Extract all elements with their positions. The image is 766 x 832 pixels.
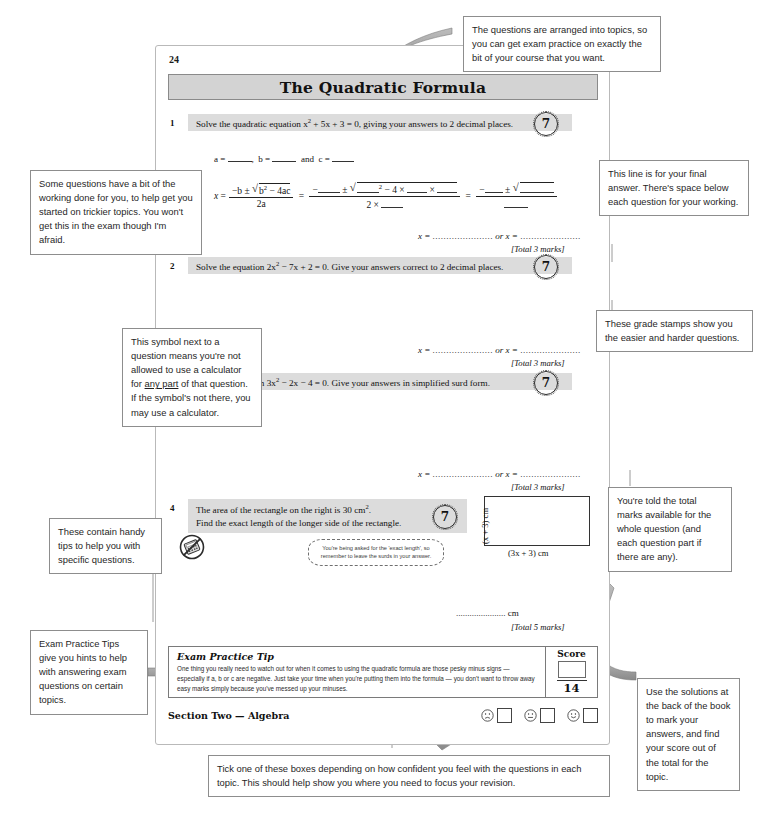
answer-or-1: or x = [493, 231, 520, 241]
score-panel: Score 14 [545, 647, 597, 697]
grade-stamp-1: 7 [534, 112, 558, 136]
total-marks-3: [Total 3 marks] [511, 482, 565, 492]
confidence-tickboxes [481, 708, 598, 723]
annotation-calculator-note: This symbol next to a question means you… [122, 328, 262, 427]
rectangle-shape [484, 496, 590, 546]
tickbox-sad[interactable] [497, 708, 512, 723]
page-footer: Section Two — Algebra [168, 708, 598, 723]
answer-prefix-1: x = [418, 231, 433, 241]
happy-face-icon [567, 709, 580, 722]
answer-prefix-3: x = [418, 469, 433, 479]
annotation-working-note: Some questions have a bit of the working… [30, 170, 202, 255]
sad-face-icon [481, 709, 494, 722]
answer-line-2: x = ...................... or x = ......… [418, 345, 581, 355]
answer-or-3: or x = [493, 469, 520, 479]
tickbox-happy[interactable] [583, 708, 598, 723]
annotation-total-marks-note: You're told the total marks available fo… [608, 487, 732, 572]
annotation-answer-line-note: This line is for your final answer. Ther… [599, 160, 749, 216]
rectangle-figure-4: (x + 3) cm (3x + 3) cm [466, 494, 596, 564]
exam-practice-tip-text: One thing you really need to watch out f… [177, 664, 538, 695]
hint-bubble-4: You're being asked for the 'exact length… [308, 539, 444, 566]
question-number-4: 4 [170, 503, 175, 513]
total-marks-1: [Total 3 marks] [511, 244, 565, 254]
tickbox-neutral[interactable] [540, 708, 555, 723]
page-title: The Quadratic Formula [168, 74, 598, 100]
score-total: 14 [563, 681, 579, 695]
grade-stamp-3: 7 [534, 371, 558, 395]
score-label: Score [557, 649, 585, 659]
confidence-group-happy[interactable] [567, 708, 598, 723]
question-text-1: Solve the quadratic equation x2 + 5x + 3… [188, 114, 572, 131]
page-title-text: The Quadratic Formula [280, 78, 486, 97]
exam-practice-tip-title: Exam Practice Tip [177, 651, 538, 662]
answer-line-3: x = ...................... or x = ......… [418, 469, 581, 479]
section-footer-title: Section Two — Algebra [168, 710, 289, 721]
grade-stamp-value-1: 7 [542, 117, 550, 131]
annotation-solutions-note: Use the solutions at the back of the boo… [637, 678, 740, 791]
neutral-face-icon [524, 709, 537, 722]
annotation-exam-practice-tips-note: Exam Practice Tips give you hints to hel… [30, 630, 148, 715]
confidence-group-neutral[interactable] [524, 708, 555, 723]
total-marks-4: [Total 5 marks] [511, 622, 565, 632]
grade-stamp-2: 7 [534, 255, 558, 279]
grade-stamp-value-3: 7 [542, 376, 550, 390]
answer-line-1: x = ...................... or x = ......… [418, 231, 581, 241]
rectangle-base-label: (3x + 3) cm [508, 548, 548, 558]
question-1-formula: x = −b ± b2 − 4ac2a = − ± 2 − 4 × × 2 × … [214, 182, 560, 210]
annotation-grade-stamp-note: These grade stamps show you the easier a… [596, 310, 753, 352]
question-text-2: Solve the equation 2x2 − 7x + 2 = 0. Giv… [188, 257, 572, 274]
answer-or-2: or x = [493, 345, 520, 355]
total-marks-2: [Total 3 marks] [511, 358, 565, 368]
answer-line-4: ...................... cm [456, 608, 519, 618]
exam-practice-tip: Exam Practice Tip One thing you really n… [168, 646, 598, 698]
question-number-2: 2 [170, 261, 175, 271]
exam-practice-tip-body: Exam Practice Tip One thing you really n… [169, 647, 545, 697]
score-input-box[interactable] [558, 661, 586, 678]
answer-prefix-2: x = [418, 345, 433, 355]
grade-stamp-value-4: 7 [441, 510, 449, 524]
grade-stamp-value-2: 7 [542, 260, 550, 274]
confidence-group-sad[interactable] [481, 708, 512, 723]
page-number: 24 [169, 54, 179, 65]
annotation-handy-tips-note: These contain handy tips to help you wit… [49, 518, 162, 574]
question-1-abc-line: a = , b = and c = [214, 152, 354, 164]
annotation-topics-note: The questions are arranged into topics, … [463, 16, 661, 72]
annotation-tickbox-note: Tick one of these boxes depending on how… [208, 755, 610, 797]
question-number-1: 1 [170, 118, 175, 128]
question-text-4: The area of the rectangle on the right i… [188, 499, 467, 533]
grade-stamp-4: 7 [433, 505, 457, 529]
no-calculator-icon [179, 534, 205, 560]
rectangle-side-label: (x + 3) cm [480, 508, 490, 544]
